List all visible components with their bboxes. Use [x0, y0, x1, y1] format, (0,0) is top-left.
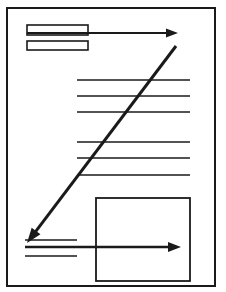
document-schematic-diagram [0, 0, 226, 292]
figure-container: Schematic document page: two header fiel… [0, 0, 226, 292]
